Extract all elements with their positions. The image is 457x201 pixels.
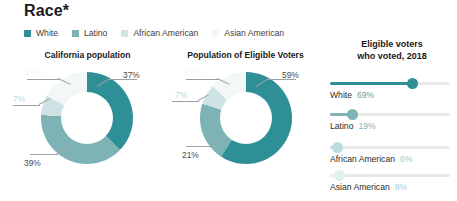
donut-chart-california-population xyxy=(41,72,133,164)
slider-fill-white xyxy=(330,82,413,85)
legend-item-african-american: African American xyxy=(121,28,198,38)
right-panel-title-line2: who voted, 2018 xyxy=(330,50,454,62)
leader-line-chart2-african-american xyxy=(172,101,199,102)
slider-value-latino: 19% xyxy=(358,121,375,131)
chart-2-label-white: 59% xyxy=(282,70,299,80)
chart-2-subtitle: Population of Eligible Voters xyxy=(168,50,323,60)
slider-value-white: 69% xyxy=(357,90,374,100)
legend-swatch-african-american xyxy=(121,30,128,37)
leader-line-chart1-african-american xyxy=(13,105,40,106)
slider-value-asian-american: 8% xyxy=(395,182,407,192)
legend-item-asian-american: Asian American xyxy=(212,28,284,38)
slider-knob-white[interactable] xyxy=(407,78,418,89)
right-panel-title: Eligible voters who voted, 2018 xyxy=(330,38,454,62)
chart-1-label-white: 37% xyxy=(123,70,140,80)
chart-2-label-latino: 21% xyxy=(182,150,199,160)
page-title: Race* xyxy=(24,2,69,20)
chart-2-label-asian-american: 13% xyxy=(184,68,201,78)
leader-line-chart1-asian-american xyxy=(27,79,59,80)
legend: White Latino African American Asian Amer… xyxy=(24,28,298,38)
legend-label-asian-american: Asian American xyxy=(224,28,284,38)
donut-hole xyxy=(220,92,272,144)
chart-1-label-asian-american: 16% xyxy=(25,68,42,78)
race-demographics-panel: Race* White Latino African American Asia… xyxy=(0,0,457,201)
legend-label-white: White xyxy=(36,28,58,38)
slider-label-white: White xyxy=(330,90,352,100)
slider-knob-asian-american[interactable] xyxy=(334,170,345,181)
slider-label-latino: Latino xyxy=(330,121,353,131)
chart-1-label-african-american: 7% xyxy=(13,94,25,104)
slider-knob-latino[interactable] xyxy=(347,109,358,120)
chart-1-label-latino: 39% xyxy=(24,158,41,168)
right-panel-title-line1: Eligible voters xyxy=(330,38,454,50)
legend-label-african-american: African American xyxy=(133,28,198,38)
legend-swatch-asian-american xyxy=(212,30,219,37)
legend-item-white: White xyxy=(24,28,58,38)
slider-knob-african-american[interactable] xyxy=(332,142,343,153)
legend-swatch-white xyxy=(24,30,31,37)
slider-track-african-american[interactable] xyxy=(330,146,450,149)
slider-row-label-african-american: African American6% xyxy=(330,154,457,164)
legend-swatch-latino xyxy=(72,30,79,37)
slider-row-label-white: White69% xyxy=(330,90,457,100)
donut-hole xyxy=(61,92,113,144)
leader-line-chart2-latino xyxy=(186,146,212,147)
slider-row-label-latino: Latino19% xyxy=(330,121,457,131)
leader-line-chart1-latino xyxy=(30,154,58,155)
slider-track-asian-american[interactable] xyxy=(330,174,450,177)
slider-label-african-american: African American xyxy=(330,154,395,164)
legend-label-latino: Latino xyxy=(84,28,107,38)
slider-row-label-asian-american: Asian American8% xyxy=(330,182,457,192)
legend-item-latino: Latino xyxy=(72,28,107,38)
slider-value-african-american: 6% xyxy=(400,154,412,164)
slider-label-asian-american: Asian American xyxy=(330,182,390,192)
leader-line-chart2-asian-american xyxy=(186,79,218,80)
chart-1-subtitle: California population xyxy=(10,50,165,60)
donut-chart-eligible-voters xyxy=(200,72,292,164)
chart-2-label-african-american: 7% xyxy=(175,90,187,100)
